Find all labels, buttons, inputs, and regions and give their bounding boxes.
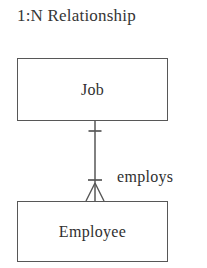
- crowsfoot-left-prong: [86, 183, 95, 201]
- relationship-label: employs: [117, 167, 173, 187]
- entity-box-employee[interactable]: Employee: [17, 201, 168, 262]
- entity-label-job: Job: [81, 81, 104, 99]
- crowsfoot-right-prong: [95, 183, 104, 201]
- entity-box-job[interactable]: Job: [17, 58, 168, 121]
- er-diagram-canvas: 1:N Relationship Job employs Employee: [0, 0, 207, 268]
- entity-label-employee: Employee: [59, 223, 126, 241]
- page-title: 1:N Relationship: [17, 5, 136, 27]
